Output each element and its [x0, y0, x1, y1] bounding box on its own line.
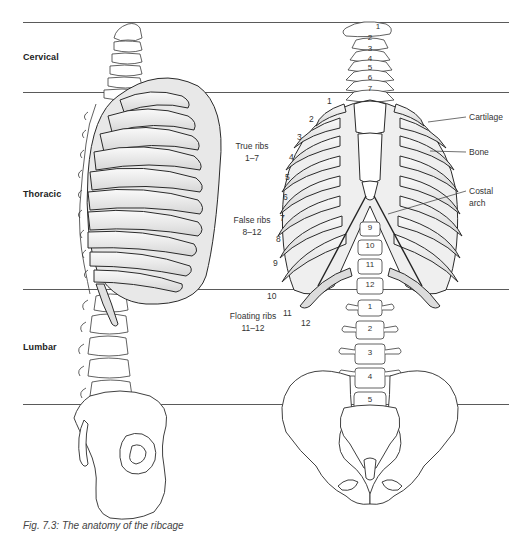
- rib-number-1: 1: [327, 96, 332, 106]
- lumbar-vertebra-3: 3: [362, 348, 378, 357]
- cervical-vertebra-7: 7: [362, 84, 378, 93]
- floating-ribs-title: Floating ribs: [218, 310, 288, 322]
- lumbar-vertebra-1: 1: [362, 302, 378, 311]
- anterior-pelvis: [282, 371, 458, 504]
- lateral-ribcage: [87, 78, 221, 326]
- false-ribs-title: False ribs: [222, 214, 282, 226]
- lumbar-vertebra-2: 2: [362, 324, 378, 333]
- callout-costal: Costal: [469, 185, 493, 197]
- rib-number-7: 7: [280, 213, 285, 223]
- ribcage-illustration: [0, 0, 530, 536]
- thoracic-vertebra-10: 10: [362, 241, 378, 250]
- thoracic-vertebra-9: 9: [362, 223, 378, 232]
- anterior-ribcage: [278, 100, 462, 308]
- floating-ribs-label: Floating ribs 11–12: [218, 310, 288, 334]
- true-ribs-label: True ribs 1–7: [222, 140, 282, 164]
- cervical-vertebra-1: 1: [370, 22, 386, 31]
- rib-number-3: 3: [297, 132, 302, 142]
- lumbar-vertebra-5: 5: [362, 395, 378, 404]
- rib-number-12: 12: [301, 318, 310, 328]
- rib-number-6: 6: [283, 192, 288, 202]
- lumbar-vertebra-4: 4: [362, 372, 378, 381]
- cervical-vertebra-6: 6: [362, 73, 378, 82]
- true-ribs-range: 1–7: [222, 152, 282, 164]
- thoracic-vertebra-11: 11: [362, 260, 378, 269]
- floating-ribs-range: 11–12: [218, 322, 288, 334]
- cervical-vertebra-4: 4: [362, 54, 378, 63]
- false-ribs-label: False ribs 8–12: [222, 214, 282, 238]
- cervical-vertebra-2: 2: [362, 33, 378, 42]
- callout-cartilage: Cartilage: [469, 111, 503, 123]
- true-ribs-title: True ribs: [222, 140, 282, 152]
- callout-bone: Bone: [469, 146, 489, 158]
- rib-number-2: 2: [309, 114, 314, 124]
- rib-number-11: 11: [283, 308, 292, 318]
- callout-costal-arch: Costal arch: [469, 185, 493, 209]
- rib-number-9: 9: [273, 258, 278, 268]
- rib-number-5: 5: [285, 172, 290, 182]
- false-ribs-range: 8–12: [222, 226, 282, 238]
- lateral-pelvis: [74, 391, 167, 519]
- cervical-vertebra-3: 3: [362, 44, 378, 53]
- figure-caption: Fig. 7.3: The anatomy of the ribcage: [23, 520, 184, 531]
- rib-number-10: 10: [267, 291, 276, 301]
- rib-number-8: 8: [276, 234, 281, 244]
- callout-arch: arch: [469, 197, 493, 209]
- rib-number-4: 4: [289, 152, 294, 162]
- thoracic-vertebra-12: 12: [362, 280, 378, 289]
- cervical-vertebra-5: 5: [362, 63, 378, 72]
